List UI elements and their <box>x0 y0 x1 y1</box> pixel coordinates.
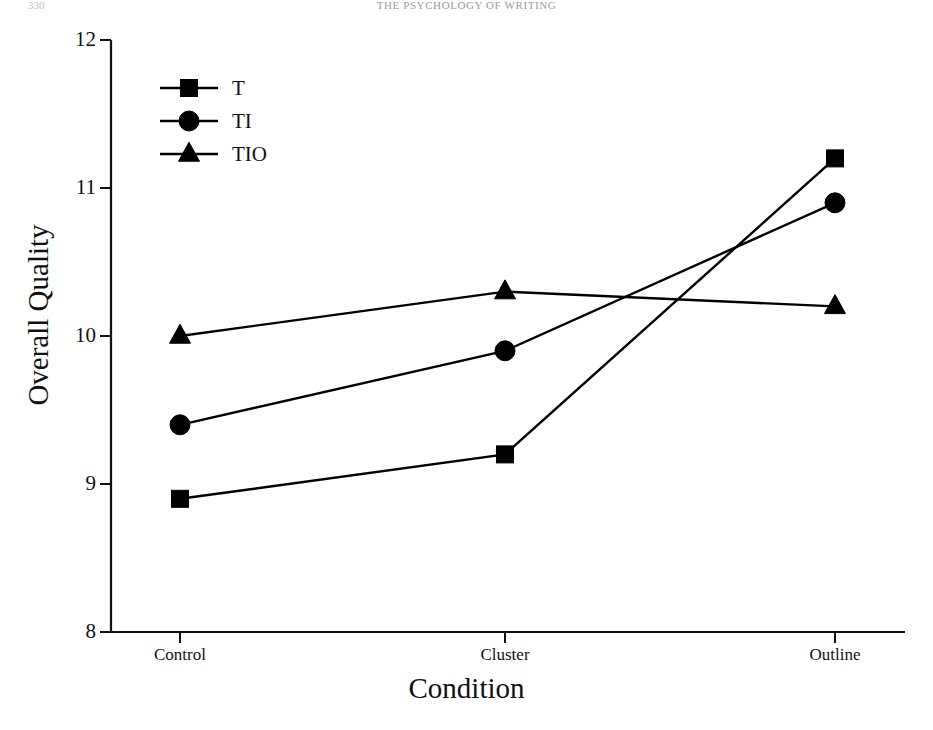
x-axis-tick-label: Outline <box>755 646 915 664</box>
legend-label: TIO <box>232 143 267 165</box>
data-point-tio-control <box>170 324 191 343</box>
data-point-tio-cluster <box>495 280 516 299</box>
y-axis-tick-label: 8 <box>52 621 96 642</box>
line-chart-figure: 89101112 ControlClusterOutline Overall Q… <box>0 0 933 730</box>
legend-marker-circle-icon <box>158 105 220 138</box>
legend-label: TI <box>232 110 252 132</box>
y-axis-tick-label: 12 <box>52 29 96 50</box>
legend-label: T <box>232 77 245 99</box>
chart-series-layer <box>170 150 846 507</box>
chart-plot-area <box>0 0 933 730</box>
x-axis-title: Condition <box>0 672 933 704</box>
y-axis-title: Overall Quality <box>23 185 53 445</box>
legend-marker-square-icon <box>158 72 220 105</box>
series-line <box>180 203 835 425</box>
data-point-t-outline <box>827 150 844 167</box>
data-point-t-control <box>172 490 189 507</box>
y-axis-tick-label: 11 <box>52 177 96 198</box>
legend-item-tio: TIO <box>158 138 348 171</box>
chart-series-t <box>172 150 844 507</box>
data-point-ti-outline <box>825 193 845 213</box>
data-point-ti-cluster <box>495 341 515 361</box>
legend-item-t: T <box>158 72 348 105</box>
x-axis-ticks <box>180 632 835 643</box>
chart-series-ti <box>170 193 845 435</box>
y-axis-tick-label: 10 <box>52 325 96 346</box>
y-axis-ticks <box>100 40 111 632</box>
chart-series-tio <box>170 280 846 343</box>
chart-legend: TTITIO <box>158 72 348 171</box>
data-point-ti-control <box>170 415 190 435</box>
x-axis-tick-label: Control <box>100 646 260 664</box>
data-point-t-cluster <box>497 446 514 463</box>
data-point-tio-outline <box>825 295 846 314</box>
x-axis-tick-label: Cluster <box>425 646 585 664</box>
legend-item-ti: TI <box>158 105 348 138</box>
y-axis-tick-label: 9 <box>52 473 96 494</box>
legend-marker-triangle-icon <box>158 138 220 171</box>
